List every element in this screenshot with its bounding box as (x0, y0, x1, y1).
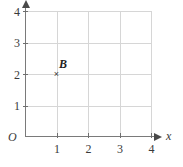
data-point-label-b: B (59, 58, 67, 70)
x-tick-label-4: 4 (144, 142, 160, 156)
gridline-vertical-x3 (120, 11, 121, 137)
x-axis-arrow-icon (154, 133, 162, 141)
x-axis-line (25, 136, 156, 137)
y-tick-label-3: 3 (7, 37, 20, 49)
x-tick-4 (151, 133, 152, 138)
origin-label: O (8, 131, 17, 143)
x-tick-2 (88, 133, 89, 138)
coordinate-grid-figure: 1 2 3 4 1 2 3 4 O x × B (0, 0, 183, 167)
y-tick-2 (23, 74, 28, 75)
y-tick-label-2: 2 (7, 69, 20, 81)
x-tick-label-3: 3 (112, 142, 128, 156)
x-tick-3 (120, 133, 121, 138)
gridline-vertical-x2 (88, 11, 89, 137)
x-axis-label: x (166, 130, 171, 142)
plot-area (25, 11, 151, 137)
data-point-marker-b: × (53, 71, 60, 78)
gridline-vertical-x4 (151, 11, 152, 137)
x-tick-1 (57, 133, 58, 138)
y-tick-label-4: 4 (7, 6, 20, 18)
x-tick-label-2: 2 (81, 142, 97, 156)
y-tick-4 (23, 11, 28, 12)
x-tick-label-1: 1 (49, 142, 65, 156)
y-tick-label-1: 1 (7, 100, 20, 112)
y-axis-line (25, 6, 26, 137)
y-tick-3 (23, 43, 28, 44)
y-axis-arrow-icon (22, 0, 30, 8)
y-tick-1 (23, 106, 28, 107)
